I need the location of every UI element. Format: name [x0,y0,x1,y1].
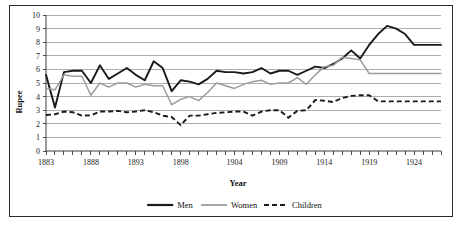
y-axis-ticks-group [43,15,47,151]
gridlines-group [46,15,441,137]
x-axis-tick-labels-group: 188318881893189819041909191419191924 [38,158,422,167]
y-axis-tick-label: 8 [36,38,40,47]
x-axis-tick-label: 1893 [128,158,144,167]
y-axis-tick-label: 2 [36,120,40,129]
y-axis-tick-label: 3 [36,106,40,115]
legend-label-women: Women [231,200,258,210]
x-axis-tick-label: 1914 [316,158,332,167]
series-line-women [46,57,441,105]
x-axis-tick-label: 1909 [271,158,287,167]
y-axis-tick-label: 0 [36,147,40,156]
y-axis-tick-label: 7 [36,52,40,61]
y-axis-title: Rupee [14,90,24,113]
legend-label-children: Children [292,200,322,210]
x-axis-tick-label: 1898 [173,158,189,167]
legend-label-men: Men [177,200,193,210]
x-axis-title: Year [230,178,247,188]
y-axis-tick-label: 5 [36,79,40,88]
x-axis-ticks-group [46,151,441,155]
y-axis-tick-label: 4 [36,93,40,102]
y-axis-tick-label: 1 [36,133,40,142]
x-axis-tick-label: 1888 [83,158,99,167]
y-axis-tick-label: 6 [36,65,40,74]
chart-container: 012345678910 188318881893189819041909191… [9,5,453,217]
x-axis-tick-label: 1924 [406,158,422,167]
y-axis-tick-label: 9 [36,25,40,34]
y-axis-tick-label: 10 [32,11,40,20]
x-axis-tick-label: 1904 [227,158,243,167]
chart-legend: MenWomenChildren [147,200,322,210]
x-axis-tick-label: 1883 [38,158,54,167]
series-line-men [46,26,441,108]
x-axis-tick-label: 1919 [361,158,377,167]
y-axis-tick-labels-group: 012345678910 [32,11,40,156]
line-chart: 012345678910 188318881893189819041909191… [10,6,451,215]
